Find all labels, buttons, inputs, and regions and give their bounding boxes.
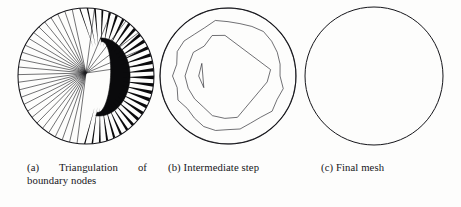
caption-c-label: (c): [321, 161, 333, 173]
panel-c-boundary-circle: [305, 7, 443, 145]
caption-c-text1: Final mesh: [336, 161, 384, 173]
caption-b-label: (b): [168, 161, 181, 173]
caption-a: (a) Triangulation of boundary nodes: [27, 161, 147, 187]
panel-b-boundary-circle: [160, 8, 296, 144]
caption-b-text1: Intermediate step: [184, 161, 260, 173]
caption-b-line1: (b) Intermediate step: [168, 161, 308, 174]
caption-a-line1: (a) Triangulation of: [27, 161, 147, 174]
caption-a-text1: Triangulation of: [59, 161, 147, 173]
panel-c-drawing: [296, 0, 451, 155]
panel-b-drawing: [152, 0, 302, 155]
obstacle-crescent: [96, 38, 130, 116]
panel-b-intermediate-step: [152, 0, 302, 155]
panel-a-triangulation-of-boundary-nodes: [8, 0, 158, 155]
panel-a-drawing: [8, 0, 158, 155]
caption-a-label: (a): [27, 161, 39, 173]
caption-c: (c) Final mesh: [321, 161, 451, 174]
caption-b: (b) Intermediate step: [168, 161, 308, 174]
figure-container: (a) Triangulation of boundary nodes (b) …: [0, 0, 461, 207]
caption-c-line1: (c) Final mesh: [321, 161, 451, 174]
panel-c-final-mesh: [296, 0, 451, 155]
caption-a-line2: boundary nodes: [27, 174, 147, 187]
coarse-mesh-edges: [160, 8, 296, 144]
